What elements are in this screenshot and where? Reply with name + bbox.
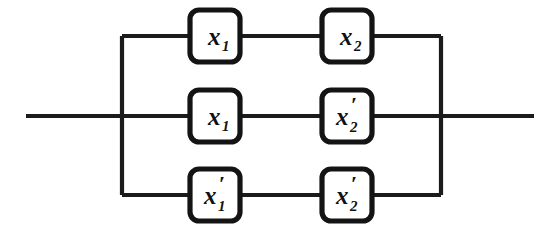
- contact-bottom-right-variable: x: [335, 182, 349, 209]
- contact-bottom-right-subscript: 2: [349, 198, 358, 214]
- contact-bottom-right-prime: ′: [351, 171, 357, 196]
- contact-middle-right-prime: ′: [351, 92, 357, 117]
- contact-middle-left[interactable]: x 1: [190, 90, 240, 142]
- contact-bottom-left-variable: x: [203, 182, 217, 209]
- contact-middle-right[interactable]: x 2 ′: [322, 90, 372, 142]
- contact-middle-left-variable: x: [207, 103, 221, 130]
- contact-top-left[interactable]: x 1: [190, 10, 240, 62]
- contact-top-right[interactable]: x 2: [322, 10, 372, 62]
- contact-top-right-variable: x: [339, 23, 353, 50]
- contact-top-right-subscript: 2: [353, 38, 362, 54]
- circuit-canvas: x 1 x 2 x 1 x 2 ′ x 1 ′: [0, 0, 559, 237]
- contact-middle-left-subscript: 1: [222, 118, 230, 134]
- contact-bottom-left-subscript: 1: [218, 198, 226, 214]
- contact-top-left-variable: x: [207, 23, 221, 50]
- contact-middle-right-subscript: 2: [349, 119, 358, 135]
- contact-bottom-left-prime: ′: [219, 171, 225, 196]
- contact-middle-right-variable: x: [335, 103, 349, 130]
- circuit-diagram: x 1 x 2 x 1 x 2 ′ x 1 ′: [0, 0, 559, 237]
- contact-bottom-left[interactable]: x 1 ′: [190, 169, 240, 221]
- contact-bottom-right[interactable]: x 2 ′: [322, 169, 372, 221]
- contact-top-left-subscript: 1: [222, 38, 230, 54]
- wire-group: [26, 36, 534, 195]
